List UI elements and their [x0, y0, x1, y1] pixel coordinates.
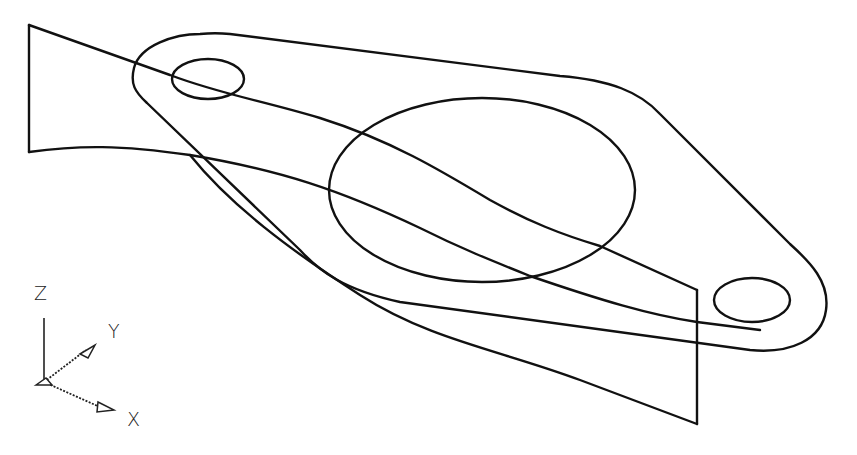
twisted-surface-bottom-edge [29, 147, 760, 330]
ucs-icon [36, 318, 114, 412]
x-axis-line [44, 382, 102, 408]
wireframe-drawing [0, 0, 857, 455]
bolt-hole-right [714, 278, 790, 322]
y-axis-arrow-icon [80, 345, 95, 358]
y-axis-line [44, 350, 86, 382]
y-axis-label: Y [108, 322, 120, 341]
center-bore [329, 98, 635, 282]
z-axis-label: Z [34, 284, 47, 303]
flange-outline [133, 33, 827, 350]
origin-marker-icon [36, 378, 52, 385]
x-axis-label: X [127, 410, 140, 429]
x-axis-arrow-icon [97, 402, 114, 412]
twisted-surface-diagonal-edge [190, 155, 697, 424]
